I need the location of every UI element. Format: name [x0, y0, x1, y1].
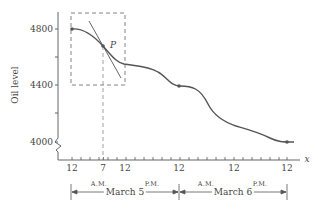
point-end [285, 140, 289, 144]
zoom-box [71, 13, 125, 85]
x-tick-12pm-mar5: 12 [119, 163, 130, 173]
oil-level-curve [72, 29, 294, 142]
x-tick-7am: 7 [100, 163, 106, 173]
y-tick-4400: 4400 [30, 80, 53, 90]
point-p-label: P [110, 40, 116, 50]
x-axis-label: x [304, 154, 309, 164]
x-tick-12pm-mar6: 12 [228, 163, 239, 173]
x-tick-12am-mar7: 12 [281, 163, 292, 173]
tangent-line [89, 21, 121, 78]
day-label-march-6: March 6 [212, 187, 254, 197]
period-pm-mar5: P.M. [145, 180, 160, 188]
y-axis-label: Oil level [10, 66, 20, 104]
y-tick-4800: 4800 [30, 24, 53, 34]
point-midnight [177, 84, 181, 88]
point-start [70, 27, 74, 31]
y-tick-4000: 4000 [30, 137, 53, 147]
point-p [101, 44, 105, 48]
x-tick-12am-mar6: 12 [173, 163, 184, 173]
axis-break-icon [55, 138, 61, 160]
x-tick-12am-mar5: 12 [66, 163, 77, 173]
period-pm-mar6: P.M. [253, 180, 268, 188]
day-label-march-5: March 5 [104, 187, 146, 197]
